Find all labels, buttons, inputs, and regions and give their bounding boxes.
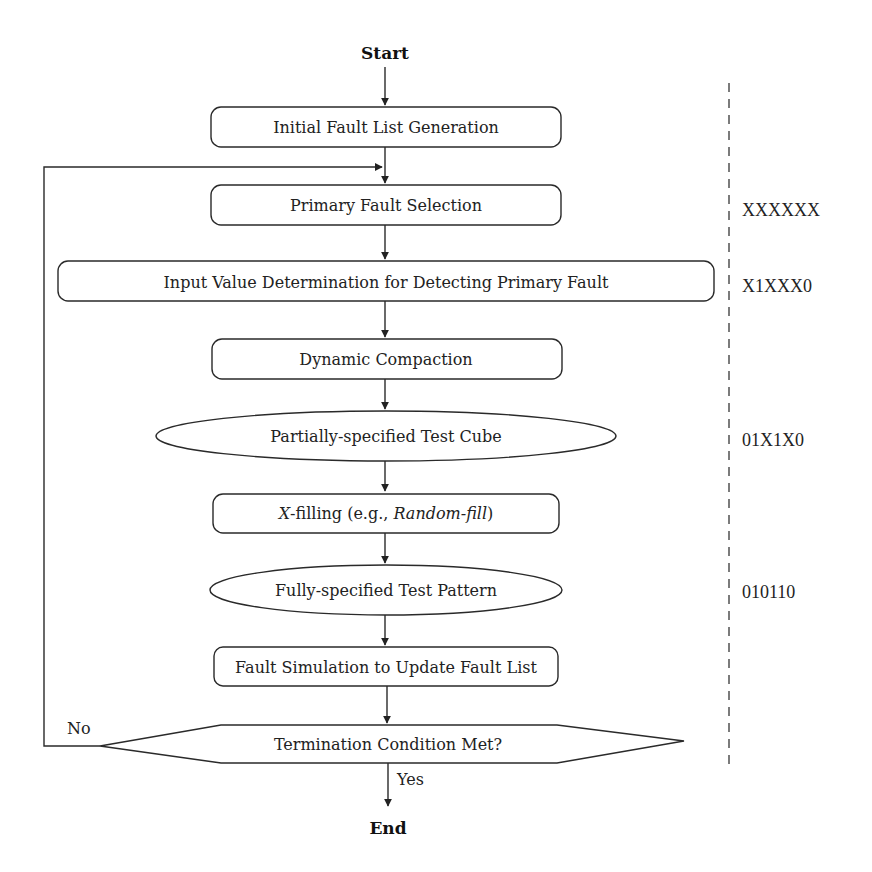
no-label: No [67, 719, 91, 738]
node-initial-fault-list-generation: Initial Fault List Generation [211, 107, 561, 147]
yes-label: Yes [396, 770, 424, 789]
annotation-primary: XXXXXX [742, 200, 820, 220]
node-fully-specified-test-pattern: Fully-specified Test Pattern [210, 565, 562, 615]
end-label: End [369, 818, 406, 838]
annotation-input-value: X1XXX0 [742, 276, 812, 296]
node-label: Input Value Determination for Detecting … [164, 273, 609, 292]
node-label: Initial Fault List Generation [273, 118, 499, 137]
x-filling-text: -filling (e.g., [290, 504, 393, 523]
node-x-filling: X-filling (e.g., Random-fill) [213, 494, 559, 533]
node-label: Dynamic Compaction [299, 350, 472, 369]
node-label: Fault Simulation to Update Fault List [235, 658, 537, 677]
annotation-full-pattern: 010110 [742, 582, 795, 602]
node-label: Fully-specified Test Pattern [275, 581, 497, 600]
node-fault-simulation: Fault Simulation to Update Fault List [214, 647, 558, 686]
close-paren: ) [487, 504, 493, 523]
node-label: X-filling (e.g., Random-fill) [277, 504, 494, 523]
node-label: Primary Fault Selection [290, 196, 482, 215]
x-symbol: X [277, 504, 291, 523]
node-dynamic-compaction: Dynamic Compaction [212, 339, 562, 379]
node-label: Partially-specified Test Cube [270, 427, 501, 446]
node-primary-fault-selection: Primary Fault Selection [211, 185, 561, 225]
random-fill-text: Random-fill [392, 504, 487, 523]
node-label: Termination Condition Met? [274, 735, 502, 754]
annotation-partial-cube: 01X1X0 [742, 430, 804, 450]
node-input-value-determination: Input Value Determination for Detecting … [58, 261, 714, 301]
node-termination-decision: Termination Condition Met? [100, 725, 684, 763]
node-partially-specified-test-cube: Partially-specified Test Cube [156, 411, 616, 461]
start-label: Start [361, 43, 409, 63]
flowchart: Start Initial Fault List Generation No P… [0, 0, 872, 872]
